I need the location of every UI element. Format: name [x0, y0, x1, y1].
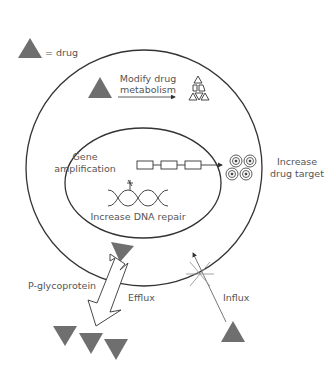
modify-drug-metabolism: Modify drug metabolism — [88, 73, 209, 100]
target-label-line1: Increase — [277, 156, 317, 167]
efflux-label: Efflux — [128, 292, 155, 303]
metabolized-drug-fragments-icon — [189, 76, 209, 100]
efflux-pathway: P-glycoprotein Efflux — [28, 242, 155, 360]
dna-repair: Increase DNA repair — [90, 180, 185, 222]
influx-arrow — [193, 253, 226, 322]
drug-resistance-diagram: = drug Modify drug metabolism Gene ampli… — [0, 0, 333, 377]
dna-repair-label: Increase DNA repair — [90, 211, 185, 222]
gene-amplification: Gene amplification — [54, 151, 222, 174]
legend-label: = drug — [45, 47, 78, 58]
dna-helix-icon — [108, 180, 168, 206]
increase-drug-target: Increase drug target — [226, 155, 324, 180]
drug-icon-out-3 — [104, 339, 128, 360]
gene-copies-icon — [137, 161, 222, 169]
modify-label-line1: Modify drug — [120, 73, 177, 84]
drug-target-receptors-icon — [226, 155, 256, 180]
gene-label-line2: amplification — [54, 163, 116, 174]
p-glycoprotein-label: P-glycoprotein — [28, 280, 96, 291]
drug-icon-out-2 — [79, 333, 103, 354]
drug-icon — [88, 77, 112, 98]
target-label-line2: drug target — [270, 168, 324, 179]
modify-label-line2: metabolism — [120, 84, 176, 95]
drug-icon-outside — [221, 321, 245, 342]
influx-pathway: Influx — [186, 253, 250, 342]
influx-label: Influx — [223, 292, 250, 303]
drug-legend-icon — [18, 38, 42, 58]
drug-icon-out-1 — [53, 326, 77, 346]
legend: = drug — [18, 38, 78, 58]
gene-label-line1: Gene — [72, 151, 97, 162]
